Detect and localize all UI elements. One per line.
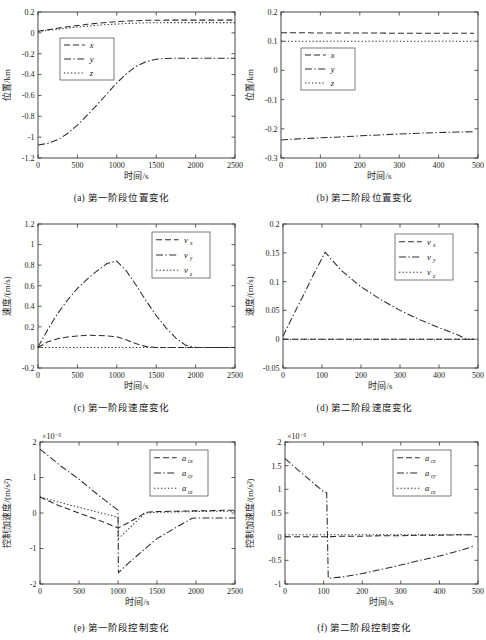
y-tick-label: 0	[31, 29, 35, 38]
y-tick-label: 1.5	[272, 462, 282, 471]
chart-f: 0100200300400500-1-0.500.511.52时间/s控制加速度…	[243, 420, 486, 620]
x-tick-label: 500	[71, 371, 83, 380]
legend-label-sub: cz	[431, 489, 436, 495]
series-line-x	[281, 33, 474, 34]
caption-e: (e) 第一阶段控制变化	[0, 620, 243, 634]
y-tick-label: 0.2	[25, 323, 35, 332]
y-tick-label: 0.5	[272, 509, 282, 518]
x-tick-label: 1500	[148, 161, 164, 170]
y-tick-label: -0.05	[263, 364, 280, 373]
x-axis-title: 时间/s	[368, 380, 393, 391]
panel-f: 0100200300400500-1-0.500.511.52时间/s控制加速度…	[243, 420, 486, 640]
x-tick-label: 200	[354, 161, 366, 170]
x-axis-title: 时间/s	[367, 170, 392, 181]
x-tick-label: 500	[472, 161, 484, 170]
axis-exponent: ×10⁻³	[287, 432, 307, 441]
y-axis-title: 速度/(m/s)	[1, 276, 12, 316]
legend-label: y	[89, 54, 94, 64]
caption-a: (a) 第一阶段位置变化	[0, 190, 243, 204]
panel-e: 05001000150020002500-2-1012时间/s控制加速度/(m/…	[0, 420, 243, 640]
chart-e: 05001000150020002500-2-1012时间/s控制加速度/(m/…	[0, 420, 243, 620]
legend-label-sub: cy	[431, 473, 436, 479]
legend-label: z	[89, 68, 94, 78]
legend-label: a	[182, 453, 186, 463]
y-tick-label: -2	[30, 580, 37, 589]
y-tick-label: 0.2	[268, 8, 278, 17]
axis-exponent: ×10⁻³	[42, 432, 62, 441]
series-line-a_cx	[40, 497, 235, 528]
x-tick-label: 2500	[227, 161, 243, 170]
y-tick-label: 1	[278, 485, 282, 494]
x-tick-label: 0	[36, 161, 40, 170]
x-tick-label: 500	[472, 371, 484, 380]
x-tick-label: 100	[314, 161, 326, 170]
legend-label: a	[425, 468, 429, 478]
panel-a: 05001000150020002500-1.2-1-0.8-0.6-0.4-0…	[0, 0, 243, 210]
x-tick-label: 2000	[188, 161, 204, 170]
legend-label: a	[182, 468, 186, 478]
chart-d: 0100200300400500-0.0500.050.10.150.2时间/s…	[243, 210, 486, 400]
y-tick-label: -1	[275, 580, 282, 589]
y-tick-label: 0.15	[266, 249, 280, 258]
y-tick-label: 0.2	[25, 8, 35, 17]
legend-label: v	[184, 235, 188, 245]
series-line-y	[281, 132, 474, 140]
x-axis-title: 时间/s	[124, 170, 149, 181]
y-tick-label: 0.1	[270, 278, 280, 287]
y-tick-label: 0	[278, 533, 282, 542]
legend-label: v	[427, 267, 431, 277]
x-tick-label: 0	[36, 371, 40, 380]
caption-d: (d) 第二阶段速度变化	[243, 400, 486, 414]
legend-label-sub: x	[189, 240, 193, 246]
plot-d: 0100200300400500-0.0500.050.10.150.2时间/s…	[243, 210, 486, 400]
x-tick-label: 1000	[109, 371, 125, 380]
x-tick-label: 400	[433, 371, 445, 380]
x-axis-title: 时间/s	[124, 380, 149, 391]
panel-b: 0100200300400500-0.3-0.2-0.100.10.2时间/s位…	[243, 0, 486, 210]
y-tick-label: -0.1	[265, 96, 278, 105]
y-tick-label: 1	[33, 473, 37, 482]
legend-label: a	[182, 483, 186, 493]
y-tick-label: 0.4	[25, 302, 35, 311]
figure-sheet: 05001000150020002500-1.2-1-0.8-0.6-0.4-0…	[0, 0, 486, 640]
plot-e: 05001000150020002500-2-1012时间/s控制加速度/(m/…	[0, 420, 243, 620]
y-axis-title: 速度/(m/s)	[244, 276, 255, 316]
legend-label-sub: cy	[188, 473, 193, 479]
y-tick-label: -1.2	[22, 154, 35, 163]
x-tick-label: 2500	[227, 371, 243, 380]
x-tick-label: 100	[316, 371, 328, 380]
x-tick-label: 2500	[227, 587, 243, 596]
y-tick-label: -0.2	[22, 50, 35, 59]
y-tick-label: -0.3	[265, 154, 278, 163]
x-tick-label: 400	[433, 161, 445, 170]
x-tick-label: 300	[393, 161, 405, 170]
x-tick-label: 0	[281, 371, 285, 380]
y-tick-label: -0.2	[22, 364, 35, 373]
y-tick-label: 0.05	[266, 306, 280, 315]
plot-c: 05001000150020002500-0.200.20.40.60.811.…	[0, 210, 243, 400]
y-tick-label: -0.5	[269, 556, 282, 565]
x-tick-label: 1500	[149, 587, 165, 596]
plot-a: 05001000150020002500-1.2-1-0.8-0.6-0.4-0…	[0, 0, 243, 190]
y-tick-label: -0.2	[265, 125, 278, 134]
series-line-x	[38, 20, 235, 31]
legend-label: y	[330, 64, 335, 74]
legend-label: v	[427, 252, 431, 262]
legend-label: a	[425, 483, 429, 493]
x-tick-label: 100	[318, 587, 330, 596]
y-tick-label: -0.8	[22, 112, 35, 121]
y-tick-label: 0.6	[25, 282, 35, 291]
caption-f: (f) 第二阶段控制变化	[243, 620, 486, 634]
caption-c: (c) 第一阶段速度变化	[0, 400, 243, 414]
y-tick-label: 2	[33, 438, 37, 447]
x-tick-label: 0	[38, 587, 42, 596]
y-tick-label: 2	[278, 438, 282, 447]
x-tick-label: 500	[472, 587, 484, 596]
y-tick-label: 0	[276, 335, 280, 344]
legend-label: v	[427, 237, 431, 247]
plot-f: 0100200300400500-1-0.500.511.52时间/s控制加速度…	[243, 420, 486, 620]
panel-c: 05001000150020002500-0.200.20.40.60.811.…	[0, 210, 243, 420]
x-tick-label: 2000	[188, 587, 204, 596]
legend-label: z	[330, 78, 335, 88]
chart-a: 05001000150020002500-1.2-1-0.8-0.6-0.4-0…	[0, 0, 243, 190]
